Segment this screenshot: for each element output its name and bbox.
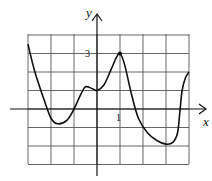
x-tick-1: 1 [116, 112, 121, 123]
grid [28, 34, 189, 165]
function-curve [28, 44, 189, 144]
max-point [118, 52, 122, 56]
y-tick-3: 3 [85, 48, 90, 59]
chart: x y 1 3 [0, 0, 212, 181]
axes [10, 14, 206, 176]
x-axis-label: x [202, 114, 209, 129]
y-axis-label: y [84, 5, 92, 20]
